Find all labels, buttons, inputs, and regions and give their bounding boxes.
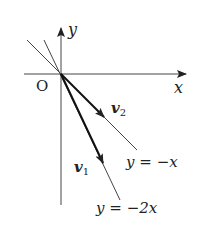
x-axis-label: x	[174, 80, 183, 96]
line2-eq: =	[109, 199, 122, 217]
vector-v1-arrow	[61, 74, 103, 163]
line2-lhs: y	[96, 199, 104, 217]
vector-v1-name: v	[74, 158, 83, 176]
line2-rhs: −2x	[127, 199, 158, 217]
vector-v2-subscript: 2	[120, 107, 126, 118]
vector-v2-name: v	[111, 99, 120, 117]
line-label-y-eq-neg-2x: y = −2x	[96, 201, 157, 216]
vector-v2-label: v2	[111, 101, 126, 118]
line1-lhs: y	[126, 153, 134, 171]
line1-rhs: −x	[157, 153, 178, 171]
y-axis-label: y	[68, 22, 77, 38]
diagram-canvas: y O x v2 v1 y = −x y = −2x	[0, 0, 204, 241]
origin-label: O	[36, 79, 48, 94]
line-label-y-eq-neg-x: y = −x	[126, 155, 178, 170]
line1-eq: =	[139, 153, 152, 171]
vector-v2-arrow	[61, 74, 104, 117]
vector-v1-subscript: 1	[83, 166, 89, 177]
vector-v1-label: v1	[74, 160, 89, 177]
